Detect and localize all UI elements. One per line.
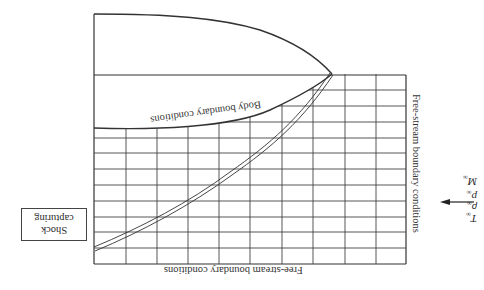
shock-wave (94, 73, 333, 251)
freestream-right-label: Free-stream boundary conditions (411, 94, 422, 233)
body-lower-outline (94, 74, 332, 129)
body-upper-outline (94, 14, 332, 74)
shock-capturing-line1: Shock (41, 225, 67, 237)
shock-capturing-line2: capturing (34, 213, 74, 225)
var-T: T∞ (447, 213, 477, 224)
shock-capturing-box: Shock capturing (21, 208, 87, 241)
var-p: p∞ (447, 191, 477, 202)
var-rho: ρ∞ (447, 202, 477, 213)
freestream-variables: T∞ ρ∞ p∞ M∞ (447, 176, 477, 224)
freestream-bottom-label: Free-stream boundary conditions (164, 265, 303, 276)
var-M: M∞ (447, 176, 477, 187)
